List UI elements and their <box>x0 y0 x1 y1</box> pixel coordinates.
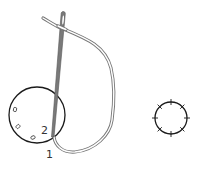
stitch-ticks <box>152 99 190 137</box>
stitch-marker <box>16 124 21 129</box>
thread-through-eye <box>58 26 66 30</box>
right-stitch-circle <box>152 99 190 137</box>
needle-icon <box>52 12 66 137</box>
label-point-2: 2 <box>41 124 48 137</box>
stitch-diagram: 2 1 <box>0 0 209 169</box>
stitch-marker <box>13 107 17 111</box>
label-point-1: 1 <box>46 148 53 161</box>
stitch-marker <box>31 135 36 139</box>
